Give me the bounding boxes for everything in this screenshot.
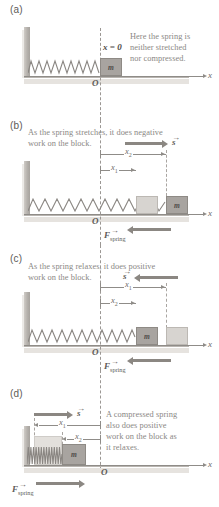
- x-axis-arrow-c: [203, 343, 207, 347]
- caption-b-line-1: As the spring stretches, it does negativ…: [28, 128, 163, 139]
- panel-c: (c) As the spring relaxes, it does posit…: [0, 245, 219, 370]
- displacement-vector-arrow-d: [67, 411, 73, 419]
- x2-measure-label-c: x2: [110, 295, 119, 307]
- caption-a-line-2: neither stretched: [130, 43, 186, 54]
- x1-dashline-c: [166, 283, 167, 328]
- spring-force-vector-arrow-c: [127, 357, 133, 365]
- spring-force-vector-arrow-b: [127, 226, 133, 234]
- x-axis-label-b: x: [208, 208, 212, 218]
- displacement-vector-label-b: → s: [172, 137, 176, 147]
- caption-c-line-1: As the spring relaxes, it does positive: [28, 262, 155, 273]
- spring-c: [28, 325, 136, 345]
- block-label-a: m: [108, 63, 114, 72]
- x1-measure-arrow-c: [161, 285, 165, 289]
- spring-a: [28, 56, 100, 76]
- block-ghost-b: m: [136, 196, 158, 214]
- displacement-vector-label-d: → s: [77, 408, 81, 418]
- ground-shadow-c: [24, 348, 189, 353]
- force-harpoon-d: →: [12, 480, 33, 489]
- x2-measure-tick-c: [100, 299, 101, 307]
- panel-c-label: (c): [10, 253, 22, 264]
- caption-a-line-1: Here the spring is: [130, 32, 190, 43]
- x2-measure-label-d: x2: [74, 431, 83, 443]
- displacement-vector-line-d: [34, 413, 68, 416]
- equilibrium-dashline-d: [100, 370, 101, 470]
- x2-measure-arrow-b: [161, 152, 165, 156]
- caption-b-line-2: work on the block.: [28, 139, 92, 150]
- x1-measure-arrow-b: [131, 168, 135, 172]
- block-ghost-label-b: m: [144, 201, 150, 210]
- x2-label-sub-b: 2: [129, 152, 132, 158]
- caption-c-line-2: work on the block.: [28, 273, 92, 284]
- x1-measure-label-d: x1: [58, 417, 67, 429]
- x1-label-sub-c: 1: [129, 285, 132, 291]
- x1-label-sub-d: 1: [63, 423, 66, 429]
- x1-measure-arrow-d: [34, 423, 38, 427]
- vector-harpoon-b: →: [172, 133, 176, 142]
- x1-measure-line-d: [39, 425, 100, 426]
- spring-d: [27, 444, 63, 466]
- spring-force-vector-line-d: [36, 482, 80, 485]
- x2-measure-line-b: [100, 154, 166, 155]
- caption-d-line-4: it relaxes.: [106, 443, 139, 454]
- x-axis-arrow-b: [203, 212, 207, 216]
- displacement-vector-arrow-b: [162, 140, 168, 148]
- x-axis-a: [24, 76, 204, 77]
- x2-measure-line-d: [67, 439, 100, 440]
- spring-force-vector-line-c: [133, 359, 171, 362]
- x2-label-sub-c: 2: [115, 301, 118, 307]
- panel-d: (d) → s A compressed spring also does po…: [0, 370, 219, 507]
- x2-measure-tick-b: [100, 150, 101, 158]
- force-harpoon-c: →: [104, 357, 125, 366]
- block-d: m: [62, 444, 86, 465]
- x2-measure-arrow-d: [62, 437, 66, 441]
- block-ghost-label-c: m: [174, 332, 180, 341]
- x1-measure-tick-b: [100, 166, 101, 174]
- caption-d-line-1: A compressed spring: [106, 410, 177, 421]
- x2-measure-tick-d: [100, 435, 101, 443]
- x1-measure-label-b: x1: [110, 162, 119, 174]
- x-axis-label-c: x: [208, 339, 212, 349]
- caption-d-line-3: work on the block as: [106, 432, 177, 443]
- caption-a-line-3: nor compressed.: [130, 54, 186, 65]
- block-ghost-c: m: [166, 327, 188, 345]
- x-axis-c: [24, 345, 204, 346]
- spring-force-vector-label-b: → Fspring: [104, 230, 125, 242]
- origin-label-a: O: [92, 78, 99, 88]
- displacement-vector-line-c: [140, 276, 178, 279]
- x-axis-label-d: x: [208, 459, 212, 469]
- spring-force-vector-arrow-d: [79, 480, 85, 488]
- block-a: m: [100, 58, 122, 76]
- block-b: m: [166, 196, 188, 214]
- panel-b-label: (b): [10, 120, 23, 131]
- x1-measure-label-c: x1: [124, 279, 133, 291]
- block-label-b: m: [174, 201, 180, 210]
- ground-shadow-b: [24, 217, 189, 222]
- panel-b: (b) As the spring stretches, it does neg…: [0, 120, 219, 245]
- equilibrium-label-a: x = 0: [103, 42, 122, 52]
- x-axis-arrow-a: [203, 74, 207, 78]
- origin-label-b: O: [92, 216, 99, 226]
- vector-f-sub-d: spring: [18, 489, 33, 496]
- x2-dashline-b: [166, 150, 167, 196]
- x2-measure-label-b: x2: [124, 146, 133, 158]
- vector-harpoon-c: →: [123, 267, 127, 276]
- x1-measure-line-c: [100, 287, 166, 288]
- ground-shadow-a: [24, 79, 189, 84]
- origin-label-d: O: [101, 467, 108, 477]
- x2-measure-arrow-c: [131, 301, 135, 305]
- x1-label-sub-b: 1: [115, 168, 118, 174]
- x1-measure-tick-c: [100, 283, 101, 291]
- spring-force-vector-line-b: [133, 228, 171, 231]
- panel-a: (a) x m x = 0 O Here the spring is neith…: [0, 0, 219, 120]
- block-label-c: m: [144, 332, 150, 341]
- spring-force-vector-label-d: → Fspring: [12, 484, 33, 496]
- caption-d-line-2: also does positive: [106, 421, 166, 432]
- vector-f-sub-b: spring: [110, 235, 125, 242]
- x1-measure-tick-d: [100, 421, 101, 429]
- panel-a-label: (a): [10, 4, 23, 15]
- displacement-vector-line-b: [125, 142, 163, 145]
- x2-label-sub-d: 2: [79, 437, 82, 443]
- x-axis-label-a: x: [208, 70, 212, 80]
- equilibrium-dashline-c: [100, 245, 101, 370]
